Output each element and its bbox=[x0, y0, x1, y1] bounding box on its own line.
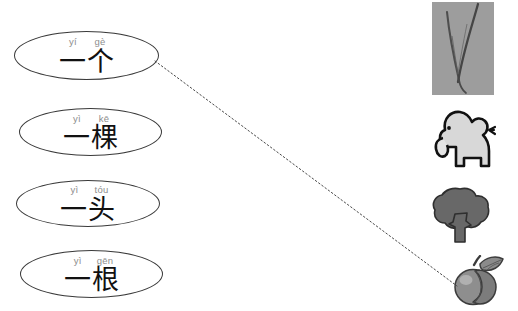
term-oval-content: yì gēn 一根 bbox=[21, 251, 162, 297]
term-oval-content: yí gè 一个 bbox=[15, 32, 158, 79]
peach-icon bbox=[450, 255, 508, 307]
elephant-illustration[interactable] bbox=[421, 108, 496, 170]
term-oval-yi-ke[interactable]: yì kē 一棵 bbox=[19, 108, 162, 156]
grass-blade-icon bbox=[432, 2, 494, 95]
tree-icon bbox=[429, 187, 491, 244]
term-oval-content: yì tóu 一头 bbox=[17, 181, 159, 226]
tree-illustration[interactable] bbox=[429, 187, 491, 244]
hanzi-text: 一棵 bbox=[63, 124, 119, 152]
hanzi-text: 一根 bbox=[64, 266, 120, 294]
term-oval-content: yì kē 一棵 bbox=[20, 109, 161, 155]
term-oval-yi-ge[interactable]: yí gè 一个 bbox=[14, 31, 159, 80]
term-oval-yi-gen[interactable]: yì gēn 一根 bbox=[20, 250, 163, 298]
elephant-icon bbox=[421, 108, 496, 170]
term-oval-yi-tou[interactable]: yì tóu 一头 bbox=[16, 180, 160, 227]
hanzi-text: 一头 bbox=[60, 196, 116, 224]
peach-illustration[interactable] bbox=[450, 255, 508, 307]
worksheet-canvas: yí gè 一个 yì kē 一棵 yì tóu 一头 yì gē bbox=[0, 0, 518, 311]
grass-blade-photo[interactable] bbox=[432, 2, 494, 95]
hanzi-text: 一个 bbox=[59, 48, 115, 76]
connector-line-yi-ge-to-peach[interactable] bbox=[155, 61, 457, 286]
